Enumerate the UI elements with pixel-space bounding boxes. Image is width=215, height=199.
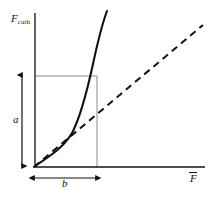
- x-axis-label: F: [190, 173, 197, 184]
- figure-vector: [0, 0, 215, 199]
- dimension-a-label: a: [13, 114, 19, 125]
- asymptote-line: [34, 25, 203, 167]
- cathode-force-curve: [35, 11, 107, 166]
- y-axis-label: Fcath: [11, 13, 30, 26]
- dimension-b-label: b: [62, 178, 68, 189]
- y-axis-label-base: F: [11, 12, 18, 24]
- x-axis-label-text: F: [190, 173, 197, 184]
- y-axis-label-subscript: cath: [18, 18, 30, 26]
- figure-canvas: Fcath F a b: [0, 0, 215, 199]
